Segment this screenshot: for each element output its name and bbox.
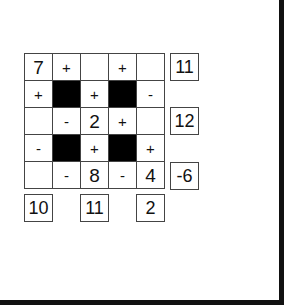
number-cell: 8 <box>81 162 108 188</box>
number-cell: 4 <box>137 162 164 188</box>
operator-cell: - <box>53 108 80 134</box>
row-1-result: 11 <box>170 53 199 81</box>
operator-cell: + <box>25 81 52 107</box>
operator-cell: - <box>109 162 136 188</box>
number-cell: 7 <box>25 54 52 80</box>
row-5-result: -6 <box>170 162 199 190</box>
blocked-cell <box>109 135 136 161</box>
operator-cell: - <box>25 135 52 161</box>
column-3-result: 11 <box>80 194 109 222</box>
operator-cell: + <box>137 135 164 161</box>
operator-cell: - <box>137 81 164 107</box>
frame-border-bottom <box>0 300 284 305</box>
empty-number-cell[interactable] <box>137 54 164 80</box>
blocked-cell <box>53 81 80 107</box>
puzzle-grid: 7++++--2+-++-8-4 <box>24 53 165 189</box>
frame-border-right <box>279 0 284 305</box>
number-cell: 2 <box>81 108 108 134</box>
empty-number-cell[interactable] <box>25 108 52 134</box>
empty-number-cell[interactable] <box>81 54 108 80</box>
row-3-result: 12 <box>170 107 199 135</box>
operator-cell: + <box>81 81 108 107</box>
empty-number-cell[interactable] <box>25 162 52 188</box>
operator-cell: + <box>81 135 108 161</box>
operator-cell: + <box>109 54 136 80</box>
blocked-cell <box>53 135 80 161</box>
column-5-result: 2 <box>136 194 165 222</box>
column-1-result: 10 <box>24 194 53 222</box>
blocked-cell <box>109 81 136 107</box>
empty-number-cell[interactable] <box>137 108 164 134</box>
operator-cell: - <box>53 162 80 188</box>
operator-cell: + <box>109 108 136 134</box>
operator-cell: + <box>53 54 80 80</box>
